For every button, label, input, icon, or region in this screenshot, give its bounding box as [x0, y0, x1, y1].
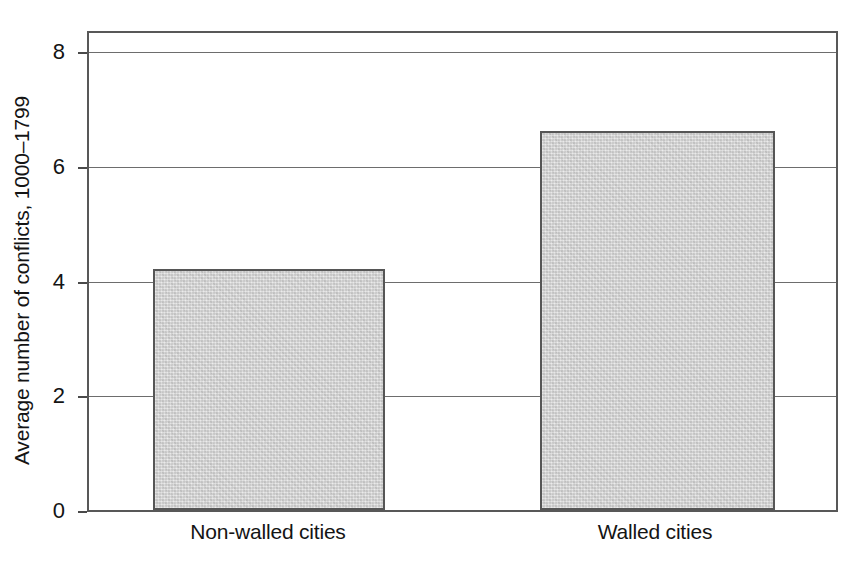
y-tick-mark-0	[78, 511, 87, 513]
y-tick-label-6: 6	[25, 156, 65, 178]
gridline-y-8	[89, 52, 836, 53]
y-tick-label-0: 0	[25, 500, 65, 522]
bar-chart-figure: Average number of conflicts, 1000–1799 0…	[0, 0, 857, 561]
y-tick-label-2: 2	[25, 385, 65, 407]
x-category-label-non-walled-cities: Non-walled cities	[93, 520, 443, 544]
y-tick-mark-2	[78, 396, 87, 398]
y-tick-mark-8	[78, 52, 87, 54]
y-tick-label-4: 4	[25, 271, 65, 293]
x-category-label-walled-cities: Walled cities	[480, 520, 830, 544]
plot-area	[87, 31, 838, 512]
y-tick-mark-6	[78, 167, 87, 169]
y-axis-ticks: 0 2 4 6 8	[0, 0, 87, 561]
bar-non-walled-cities[interactable]	[153, 269, 385, 510]
y-tick-label-8: 8	[25, 41, 65, 63]
y-tick-mark-4	[78, 282, 87, 284]
bar-walled-cities[interactable]	[540, 131, 775, 510]
